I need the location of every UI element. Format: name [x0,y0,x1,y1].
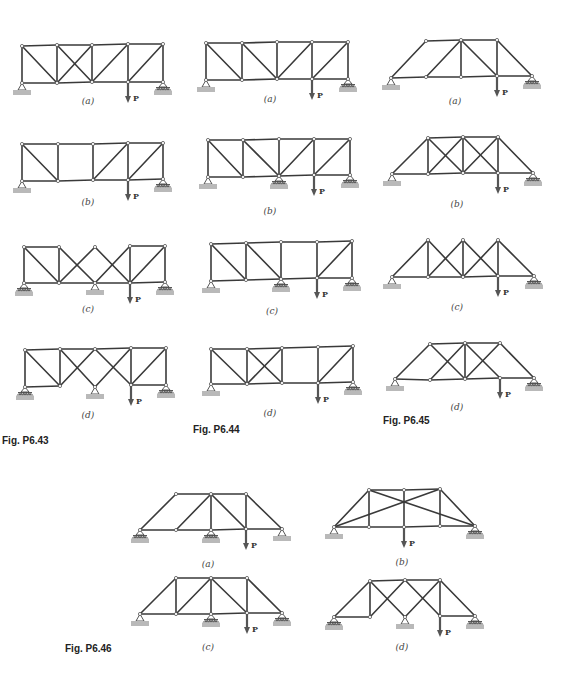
joint-pin [91,178,94,181]
joint-pin [463,377,466,380]
joint-pin [495,38,498,41]
truss-member [128,179,163,180]
load-label: P [133,191,139,201]
joint-pin [403,615,406,618]
joint-pin [351,380,354,383]
joint-pin [463,341,466,344]
load-label: P [136,396,142,406]
joint-pin [209,492,212,495]
subfigure-label: (c) [202,642,215,652]
joint-pin [126,42,129,45]
joint-pin [244,278,247,281]
figure-caption: Fig. P6.45 [383,415,430,426]
truss-diagram: P(c) [15,244,174,314]
truss-member [211,529,246,530]
subfigure-label: (b) [396,557,409,567]
truss-member [246,243,281,279]
truss-member [206,43,242,80]
joint-pin [428,342,431,345]
joint-pin [426,238,429,241]
joint-pin [240,41,243,44]
joint-pin [367,488,370,491]
load-arrow-icon: P [494,77,508,97]
truss-diagram: P(a) [13,42,172,106]
joint-pin [245,347,248,350]
joint-pin [498,341,501,344]
load-label: P [317,90,323,100]
subfigure-label: (b) [264,206,277,216]
subfigure-label: (a) [82,96,95,106]
truss-member [58,180,93,181]
load-arrow-icon: P [311,176,325,196]
figure-P6-46: P(a)P(b)P(c)P(d)Fig. P6.46 [65,487,484,654]
subfigure-label: (c) [451,302,464,312]
load-arrow-icon: P [309,80,323,100]
joint-pin [164,346,167,349]
joint-pin [174,492,177,495]
load-arrow-icon: P [497,379,511,399]
truss-member [312,42,348,79]
truss-member [247,383,282,384]
figure-caption: Fig. P6.46 [65,643,112,654]
joint-pin [57,245,60,248]
truss-member [95,348,131,349]
joint-pin [20,44,23,47]
truss-member [243,176,279,177]
joint-pin [174,612,177,615]
joint-pin [57,281,60,284]
subfigure-label: (a) [449,96,462,106]
joint-pin [461,135,464,138]
joint-pin [128,244,131,247]
joint-pin [204,41,207,44]
truss-member [92,44,128,82]
load-arrow-icon: P [244,614,258,634]
joint-pin [530,74,533,77]
truss-member [22,45,57,46]
joint-pin [426,136,429,139]
joint-pin [312,137,315,140]
joint-pin [461,238,464,241]
load-arrow-icon: P [128,386,142,406]
truss-member [242,42,277,43]
load-label: P [135,294,141,304]
load-arrow-icon: P [314,279,328,299]
truss-diagram: P(d) [16,346,175,420]
joint-pin [244,241,247,244]
joint-pin [20,142,23,145]
joint-pin [277,137,280,140]
load-label: P [409,538,415,548]
truss-diagram: P(a) [197,40,357,104]
truss-diagram: P(b) [325,487,484,567]
truss-member [317,241,352,278]
joint-pin [206,175,209,178]
truss-member [22,144,58,181]
truss-member [92,44,128,45]
joint-pin [346,77,349,80]
joint-pin [459,38,462,41]
joint-pin [90,80,93,83]
joint-pin [23,348,26,351]
joint-pin [126,141,129,144]
joint-pin [209,242,212,245]
subfigure-label: (d) [264,408,277,418]
joint-pin [20,81,23,84]
truss-member [395,379,430,380]
joint-pin [426,275,429,278]
joint-pin [438,524,441,527]
truss-member [93,143,128,180]
joint-pin [22,245,25,248]
truss-member [128,44,163,82]
truss-member [440,580,475,616]
load-label: P [502,87,508,97]
figure-caption: Fig. P6.44 [193,424,240,435]
load-label: P [503,184,509,194]
truss-diagram: P(d) [325,578,484,652]
joint-pin [332,525,335,528]
joint-pin [368,615,371,618]
truss-member [282,347,318,348]
truss-member [279,175,314,176]
truss-member [211,613,247,614]
truss-member [24,247,59,283]
joint-pin [90,43,93,46]
truss-member [242,43,277,79]
